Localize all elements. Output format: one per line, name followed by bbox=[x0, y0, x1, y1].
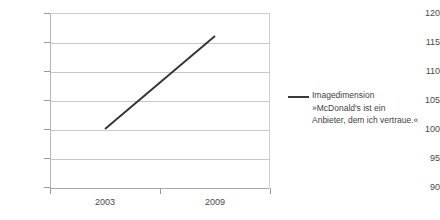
x-tick-label: 2003 bbox=[50, 198, 160, 207]
legend-label-line-1: Imagedimension bbox=[312, 89, 436, 102]
x-tick-mark bbox=[160, 188, 161, 194]
x-tick-mark bbox=[270, 188, 271, 194]
y-tick-label: 115 bbox=[400, 38, 440, 47]
legend-entry: Imagedimension »McDonald's ist ein Anbie… bbox=[312, 89, 436, 127]
gridline-110 bbox=[51, 72, 269, 73]
legend-marker-line-icon bbox=[288, 96, 309, 98]
plot-area bbox=[50, 13, 270, 188]
line-chart: 120 115 110 105 100 95 90 2003 2009 bbox=[0, 0, 440, 220]
legend-label-line-2: »McDonald's ist ein bbox=[312, 102, 436, 115]
gridline-105 bbox=[51, 101, 269, 102]
legend-label-line-3: Anbieter, dem ich vertraue.« bbox=[312, 114, 436, 127]
y-tick-label: 110 bbox=[400, 67, 440, 76]
y-tick-label: 120 bbox=[400, 9, 440, 18]
x-tick-mark bbox=[50, 188, 51, 194]
y-tick-label: 90 bbox=[400, 183, 440, 192]
gridline-115 bbox=[51, 43, 269, 44]
gridline-95 bbox=[51, 159, 269, 160]
gridline-100 bbox=[51, 130, 269, 131]
x-tick-label: 2009 bbox=[160, 198, 270, 207]
legend: Imagedimension »McDonald's ist ein Anbie… bbox=[288, 89, 436, 127]
y-tick-label: 95 bbox=[400, 154, 440, 163]
